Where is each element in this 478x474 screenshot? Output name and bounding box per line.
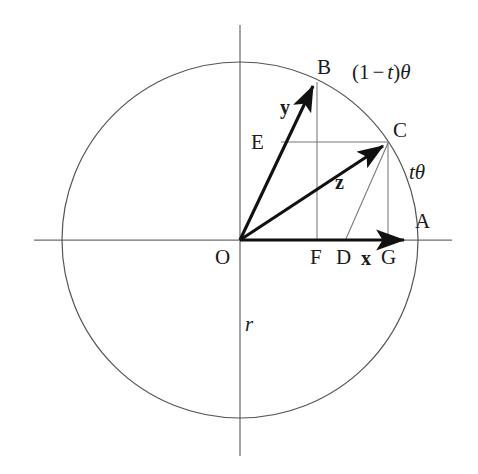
minus-sign: −: [370, 60, 388, 84]
label-point-C: C: [393, 120, 407, 141]
label-vector-z: z: [335, 172, 344, 192]
label-point-F: F: [310, 247, 322, 268]
label-point-B: B: [317, 57, 331, 78]
label-vector-x: x: [361, 248, 371, 268]
construction-lines: [281, 82, 389, 241]
label-vector-y: y: [280, 97, 290, 117]
label-point-G: G: [381, 247, 396, 268]
label-angle-one-minus-t-theta: (1−t)θ: [352, 62, 411, 83]
label-point-E: E: [251, 132, 264, 153]
theta-symbol: θ: [400, 60, 410, 84]
theta-symbol: θ: [415, 160, 425, 184]
label-point-A: A: [415, 211, 430, 232]
paren-open: (1: [352, 60, 370, 84]
label-point-D: D: [336, 247, 351, 268]
label-radius-r: r: [245, 314, 253, 335]
label-angle-t-theta: tθ: [409, 162, 425, 183]
label-point-O: O: [215, 247, 230, 268]
diagram-canvas: B C A E O F D G x y z r tθ (1−t)θ: [0, 0, 478, 474]
